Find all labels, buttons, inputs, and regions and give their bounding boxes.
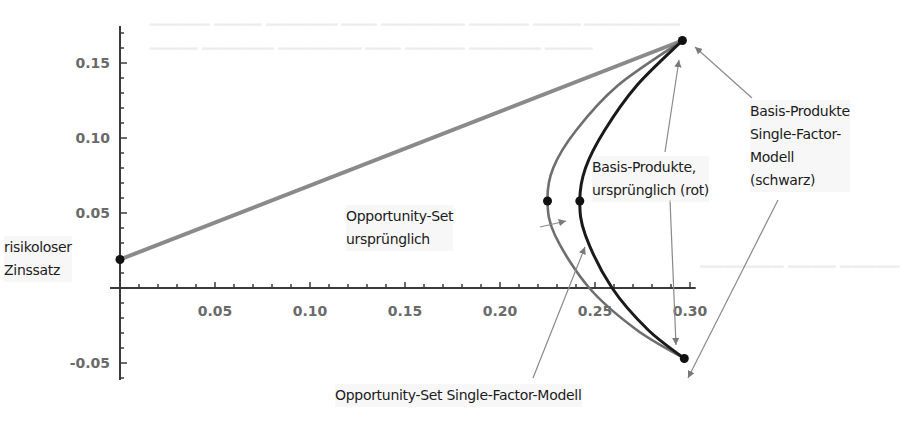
- data-point: [116, 255, 125, 264]
- annotation-arrows: [533, 47, 778, 378]
- annotation-arrow: [665, 60, 679, 152]
- annotation-arrow: [540, 221, 566, 227]
- label-opportunity-set-urspruenglich: Opportunity-Set ursprünglich: [346, 205, 453, 251]
- label-risikoloser-zinssatz: risikoloser Zinssatz: [4, 236, 72, 282]
- y-tick-label: 0.05: [75, 205, 110, 221]
- axes: 0.050.100.150.200.250.300.150.100.05-0.0…: [70, 26, 708, 380]
- data-point: [678, 36, 687, 45]
- label-basis-produkte-schwarz: Basis-Produkte Single-Factor- Modell (sc…: [750, 100, 850, 192]
- data-point: [575, 197, 584, 206]
- data-point: [543, 197, 552, 206]
- x-tick-label: 0.30: [673, 303, 708, 319]
- y-tick-label: 0.15: [75, 55, 110, 71]
- y-tick-label: -0.05: [70, 355, 110, 371]
- label-basis-produkte-rot: Basis-Produkte, ursprünglich (rot): [592, 156, 709, 202]
- annotation-arrow: [688, 200, 778, 378]
- x-tick-label: 0.15: [388, 303, 423, 319]
- annotation-arrow: [695, 47, 752, 98]
- y-tick-label: 0.10: [75, 130, 110, 146]
- x-tick-label: 0.10: [293, 303, 328, 319]
- label-opportunity-set-single-factor: Opportunity-Set Single-Factor-Modell: [335, 384, 582, 407]
- annotation-arrow: [670, 200, 676, 345]
- data-point: [680, 354, 689, 363]
- x-tick-label: 0.20: [483, 303, 518, 319]
- x-tick-label: 0.05: [198, 303, 233, 319]
